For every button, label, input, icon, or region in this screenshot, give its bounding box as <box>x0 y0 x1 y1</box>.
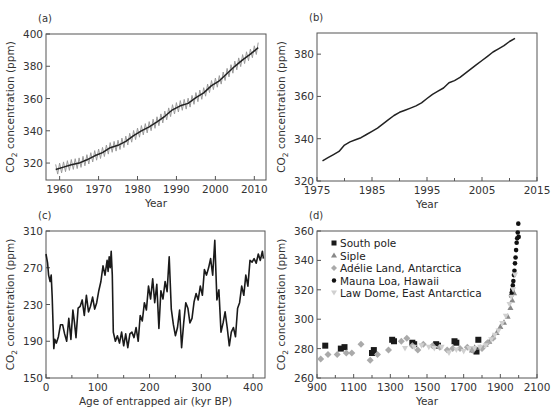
legend-marker-diamond <box>331 265 337 271</box>
marker-square <box>453 340 459 346</box>
marker-square <box>371 347 377 353</box>
x-axis-title: Age of entrapped air (kyr BP) <box>79 395 232 407</box>
x-tick-label: 2005 <box>469 184 496 196</box>
marker-circle <box>513 255 518 260</box>
y-axis-title: CO2 concentration (ppm) <box>275 41 290 173</box>
y-tick-label: 320 <box>294 284 314 296</box>
x-tick-label: 1970 <box>85 183 112 195</box>
x-tick-label: 0 <box>43 381 50 393</box>
marker-diamond <box>358 341 365 348</box>
marker-diamond <box>348 350 355 357</box>
legend-marker-circle <box>332 278 336 282</box>
x-tick-label: 2100 <box>524 381 551 393</box>
y-axis-title: CO2 concentration (ppm) <box>4 41 19 173</box>
y-tick-label: 360 <box>294 90 314 102</box>
marker-circle <box>514 240 519 245</box>
marker-diamond <box>403 335 410 342</box>
marker-diamond <box>317 355 324 362</box>
x-tick-label: 1980 <box>124 183 151 195</box>
marker-diamond <box>325 351 332 358</box>
x-tick-label: 1900 <box>487 381 514 393</box>
legend-label: Law Dome, East Antarctica <box>340 287 482 299</box>
co2-figure: (a)1960197019801990200020103203403603804… <box>0 0 552 415</box>
x-tick-label: 1700 <box>450 381 477 393</box>
legend: South poleSipleAdélie Land, AntarcticaMa… <box>331 237 482 299</box>
marker-circle <box>516 221 521 226</box>
x-tick-label: 1100 <box>340 381 367 393</box>
marker-circle <box>513 261 518 266</box>
y-tick-label: 270 <box>23 262 43 274</box>
y-tick-label: 360 <box>23 93 43 105</box>
marker-inverted-triangle <box>461 349 467 355</box>
panel-b-annual-co2-1975-2015: (b)19751985199520052015320340360380YearC… <box>275 12 550 210</box>
x-axis-title: Year <box>144 197 168 209</box>
marker-square <box>391 338 397 344</box>
panel-a-mauna-loa-full-record: (a)1960197019801990200020103203403603804… <box>4 13 268 209</box>
panel-label: (b) <box>309 12 323 23</box>
marker-circle <box>511 279 516 284</box>
y-tick-label: 190 <box>23 335 43 347</box>
x-tick-label: 1990 <box>163 183 190 195</box>
marker-circle <box>516 235 521 240</box>
x-tick-label: 1500 <box>414 381 441 393</box>
x-tick-label: 2015 <box>524 184 551 196</box>
y-tick-label: 260 <box>294 372 314 384</box>
x-tick-label: 2000 <box>202 183 229 195</box>
y-tick-label: 150 <box>23 372 43 384</box>
y-tick-label: 310 <box>23 225 43 237</box>
x-tick-label: 1960 <box>46 183 73 195</box>
x-tick-label: 2010 <box>241 183 268 195</box>
marker-diamond <box>398 338 405 345</box>
x-tick-label: 300 <box>191 381 211 393</box>
plot-frame <box>46 231 265 378</box>
marker-square <box>342 344 348 350</box>
panel-d-ice-core-compilation: (d)9001100130015001700190021002602803003… <box>275 210 550 407</box>
y-tick-label: 380 <box>23 60 43 72</box>
panel-label: (c) <box>38 210 51 221</box>
x-tick-label: 400 <box>243 381 263 393</box>
panel-label: (d) <box>309 210 323 221</box>
x-tick-label: 200 <box>140 381 160 393</box>
legend-label: Mauna Loa, Hawaii <box>340 275 439 287</box>
y-tick-label: 340 <box>23 125 43 137</box>
y-tick-label: 300 <box>294 313 314 325</box>
y-tick-label: 340 <box>294 254 314 266</box>
y-tick-label: 360 <box>294 225 314 237</box>
marker-diamond <box>385 347 392 354</box>
panel-label: (a) <box>38 13 52 24</box>
y-tick-label: 340 <box>294 133 314 145</box>
marker-square <box>322 343 328 349</box>
y-tick-label: 400 <box>23 28 43 40</box>
legend-label: South pole <box>340 237 396 249</box>
y-tick-label: 280 <box>294 343 314 355</box>
panel-c-vostok-ice-core: (c)0100200300400150190230270310Age of en… <box>4 210 265 407</box>
marker-diamond <box>367 357 374 364</box>
x-axis-title: Year <box>415 198 439 210</box>
y-tick-label: 380 <box>294 48 314 60</box>
x-axis-title: Year <box>415 395 439 407</box>
legend-marker-square <box>332 241 337 246</box>
y-axis-title: CO2 concentration (ppm) <box>275 239 290 371</box>
legend-marker-triangle <box>331 253 337 258</box>
legend-label: Siple <box>340 250 366 262</box>
y-tick-label: 320 <box>23 157 43 169</box>
plot-frame <box>317 33 537 181</box>
marker-circle <box>511 283 516 288</box>
legend-marker-inverted-triangle <box>331 291 337 296</box>
marker-circle <box>515 230 520 235</box>
x-tick-label: 1985 <box>359 184 386 196</box>
x-tick-label: 1300 <box>377 381 404 393</box>
marker-inverted-triangle <box>402 346 408 352</box>
y-tick-label: 230 <box>23 299 43 311</box>
marker-circle <box>514 248 519 253</box>
marker-diamond <box>334 351 341 358</box>
data-line <box>323 38 516 161</box>
data-line <box>56 48 259 170</box>
marker-square <box>475 337 481 343</box>
y-axis-title: CO2 concentration (ppm) <box>4 239 19 371</box>
seasonal-cycle-line <box>56 43 259 175</box>
data-line <box>46 240 263 348</box>
marker-circle <box>512 268 517 273</box>
x-tick-label: 1995 <box>414 184 441 196</box>
x-tick-label: 100 <box>88 381 108 393</box>
